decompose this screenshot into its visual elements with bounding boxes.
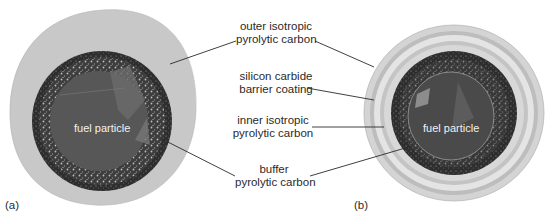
callout-buffer-line2: pyrolytic carbon xyxy=(235,176,313,189)
callout-silicon-carbide-barrier-coating: silicon carbide barrier coating xyxy=(236,70,316,96)
callout-sic-line2: barrier coating xyxy=(236,83,316,96)
callout-outer-isotropic-pyrolytic-carbon: outer isotropic pyrolytic carbon xyxy=(236,20,316,46)
fuel-particle-label-a: fuel particle xyxy=(74,122,130,134)
panel-label-b: (b) xyxy=(354,199,368,211)
callout-outer-line1: outer isotropic xyxy=(236,20,316,33)
callout-outer-line2: pyrolytic carbon xyxy=(236,33,316,46)
panel-label-a: (a) xyxy=(5,199,19,211)
callout-buffer-line1: buffer xyxy=(235,163,313,176)
callout-inner-line2: pyrolytic carbon xyxy=(232,127,314,140)
fuel-kernel-b xyxy=(408,72,494,160)
callout-buffer-pyrolytic-carbon: buffer pyrolytic carbon xyxy=(235,163,313,189)
callout-sic-line1: silicon carbide xyxy=(236,70,316,83)
panel-a-particle xyxy=(10,10,196,205)
callout-inner-isotropic-pyrolytic-carbon: inner isotropic pyrolytic carbon xyxy=(232,114,314,140)
leader-sic-b xyxy=(307,88,374,100)
callout-inner-line1: inner isotropic xyxy=(232,114,314,127)
fuel-particle-label-b: fuel particle xyxy=(423,122,479,134)
leader-outer-b xyxy=(315,41,374,67)
panel-b-particle xyxy=(364,25,544,201)
